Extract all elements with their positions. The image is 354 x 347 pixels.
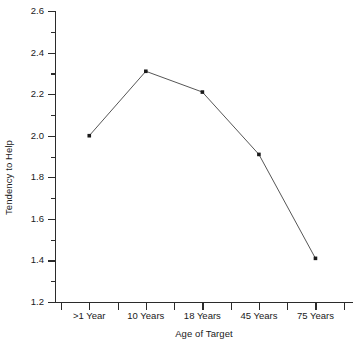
data-point-marker bbox=[144, 69, 148, 73]
plot-area bbox=[0, 0, 354, 347]
x-axis-title: Age of Target bbox=[55, 328, 353, 339]
data-point-marker bbox=[201, 90, 205, 94]
data-point-marker bbox=[87, 134, 91, 138]
series-line bbox=[89, 71, 315, 258]
line-chart-figure: Tendency to Help 1.21.41.61.82.02.22.42.… bbox=[0, 0, 354, 347]
data-point-marker bbox=[257, 153, 261, 157]
data-point-marker bbox=[314, 257, 318, 261]
